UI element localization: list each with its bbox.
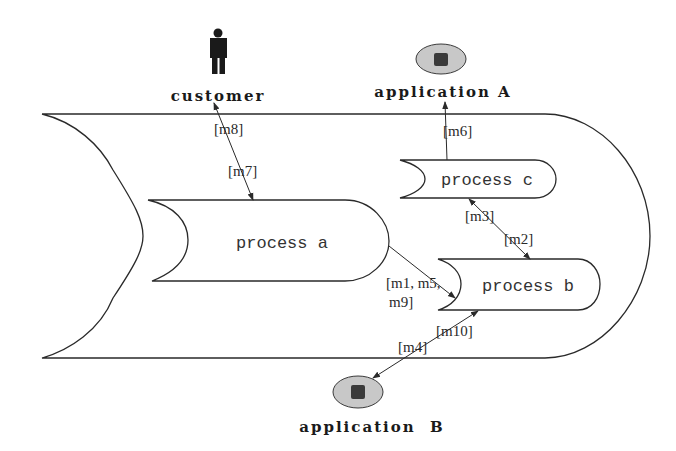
- message-label-m7: [m7]: [228, 163, 257, 179]
- customer-actor[interactable]: customer: [171, 29, 266, 106]
- message-label-m4: [m4]: [398, 339, 427, 355]
- process-b[interactable]: process b: [438, 259, 600, 310]
- process-a-label: process a: [236, 234, 328, 253]
- process-diagram: process a process c process b customer a…: [0, 0, 676, 451]
- message-arrow-customer-process-a: [214, 103, 253, 200]
- application-b-label: application B: [299, 418, 445, 436]
- container-shape: [42, 114, 650, 358]
- message-label-m3: [m3]: [465, 208, 494, 224]
- application-icon: [416, 44, 466, 74]
- message-label-m8: [m8]: [214, 121, 243, 137]
- application-b-actor[interactable]: application B: [299, 376, 445, 436]
- process-a[interactable]: process a: [148, 200, 389, 281]
- process-c-label: process c: [441, 171, 533, 190]
- person-icon: [210, 29, 227, 75]
- process-b-label: process b: [482, 277, 574, 296]
- application-a-label: application A: [374, 83, 511, 101]
- process-c[interactable]: process c: [400, 160, 556, 198]
- message-label-m10: [m10]: [436, 323, 473, 339]
- message-label-m1-m5-line2: m9]: [389, 294, 413, 310]
- application-a-actor[interactable]: application A: [374, 44, 511, 101]
- message-label-m1-m5-line1: [m1, m5,: [386, 275, 441, 291]
- application-icon: [333, 376, 383, 408]
- message-label-m6: [m6]: [443, 123, 472, 139]
- message-label-m2: [m2]: [504, 231, 533, 247]
- customer-label: customer: [171, 87, 266, 105]
